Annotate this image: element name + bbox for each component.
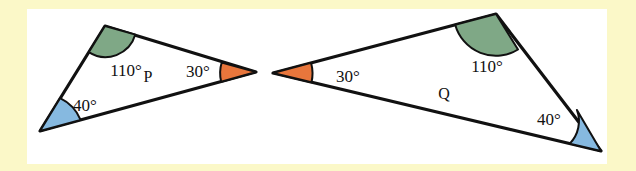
triangle-label-p: P bbox=[144, 68, 153, 85]
frame-band-bottom bbox=[0, 164, 636, 171]
figure-canvas: 110° 40° 30° P 30° 110° 40° Q bbox=[0, 0, 636, 171]
frame-band-left bbox=[0, 0, 27, 171]
angle-label-q-40: 40° bbox=[537, 110, 561, 129]
angle-label-p-40: 40° bbox=[73, 96, 97, 115]
triangle-label-q: Q bbox=[438, 85, 450, 102]
frame-band-top bbox=[0, 0, 636, 9]
frame-band-right bbox=[607, 0, 636, 171]
angle-label-q-30: 30° bbox=[336, 67, 360, 86]
angle-label-q-110: 110° bbox=[471, 57, 503, 76]
angle-label-p-30: 30° bbox=[186, 62, 210, 81]
geometry-figure: 110° 40° 30° P 30° 110° 40° Q bbox=[0, 0, 636, 171]
angle-label-p-110: 110° bbox=[110, 61, 142, 80]
